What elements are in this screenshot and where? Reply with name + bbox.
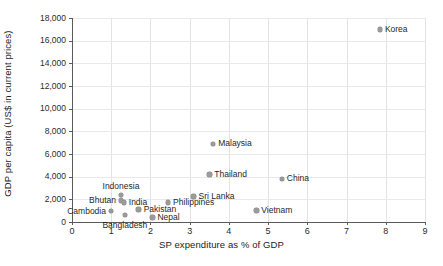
x-axis-tick-mark bbox=[386, 222, 387, 225]
x-axis-tick-label: 4 bbox=[219, 226, 239, 236]
gridline-horizontal bbox=[72, 177, 425, 178]
data-point-label: Thailand bbox=[214, 170, 247, 179]
x-axis-tick-label: 0 bbox=[62, 226, 82, 236]
gridline-horizontal bbox=[72, 109, 425, 110]
x-axis-title: SP expenditure as % of GDP bbox=[0, 239, 443, 250]
gridline-vertical bbox=[425, 18, 426, 222]
y-axis-tick-label: 0 bbox=[0, 218, 66, 226]
y-axis-tick-mark bbox=[69, 86, 72, 87]
y-axis-tick-label: 8,000 bbox=[0, 127, 66, 135]
gridline-horizontal bbox=[72, 86, 425, 87]
y-axis-tick-mark bbox=[69, 41, 72, 42]
scatter-chart: SP expenditure as % of GDP GDP per capit… bbox=[0, 0, 443, 266]
data-point[interactable] bbox=[254, 208, 259, 213]
data-point[interactable] bbox=[207, 172, 212, 177]
y-axis-tick-label: 16,000 bbox=[0, 36, 66, 44]
data-point-label: Vietnam bbox=[261, 206, 292, 215]
gridline-vertical bbox=[150, 18, 151, 222]
data-point-label: Malaysia bbox=[218, 139, 252, 148]
y-axis-tick-mark bbox=[69, 177, 72, 178]
data-point-label: Philippines bbox=[173, 198, 214, 207]
y-axis-tick-label: 12,000 bbox=[0, 82, 66, 90]
y-axis-tick-label: 10,000 bbox=[0, 104, 66, 112]
gridline-vertical bbox=[347, 18, 348, 222]
y-axis-tick-label: 4,000 bbox=[0, 172, 66, 180]
x-axis-tick-mark bbox=[150, 222, 151, 225]
y-axis-tick-mark bbox=[69, 199, 72, 200]
gridline-horizontal bbox=[72, 41, 425, 42]
data-point-label: Cambodia bbox=[67, 207, 106, 216]
data-point-label: Indonesia bbox=[103, 182, 140, 191]
data-point[interactable] bbox=[122, 200, 127, 205]
data-point[interactable] bbox=[136, 207, 141, 212]
x-axis-tick-mark bbox=[307, 222, 308, 225]
y-axis-tick-label: 14,000 bbox=[0, 59, 66, 67]
gridline-horizontal bbox=[72, 154, 425, 155]
y-axis-tick-mark bbox=[69, 154, 72, 155]
x-axis-tick-mark bbox=[347, 222, 348, 225]
gridline-vertical bbox=[268, 18, 269, 222]
x-axis-tick-label: 6 bbox=[297, 226, 317, 236]
y-axis-tick-label: 18,000 bbox=[0, 14, 66, 22]
x-axis-tick-mark bbox=[425, 222, 426, 225]
y-axis-tick-label: 6,000 bbox=[0, 150, 66, 158]
gridline-vertical bbox=[307, 18, 308, 222]
y-axis-tick-mark bbox=[69, 109, 72, 110]
y-axis-tick-label: 2,000 bbox=[0, 195, 66, 203]
x-axis-tick-mark bbox=[72, 222, 73, 225]
x-axis-tick-label: 9 bbox=[415, 226, 435, 236]
data-point-label: Korea bbox=[385, 25, 408, 34]
x-axis-tick-label: 5 bbox=[258, 226, 278, 236]
gridline-horizontal bbox=[72, 131, 425, 132]
gridline-vertical bbox=[111, 18, 112, 222]
y-axis-line bbox=[72, 18, 73, 223]
x-axis-tick-label: 3 bbox=[180, 226, 200, 236]
gridline-vertical bbox=[386, 18, 387, 222]
y-axis-tick-mark bbox=[69, 131, 72, 132]
gridline-horizontal bbox=[72, 63, 425, 64]
plot-area bbox=[72, 18, 425, 222]
x-axis-tick-label: 8 bbox=[376, 226, 396, 236]
data-point[interactable] bbox=[378, 27, 383, 32]
gridline-horizontal bbox=[72, 18, 425, 19]
x-axis-tick-mark bbox=[268, 222, 269, 225]
data-point[interactable] bbox=[150, 215, 155, 220]
x-axis-tick-mark bbox=[190, 222, 191, 225]
data-point-label: China bbox=[287, 174, 309, 183]
x-axis-tick-label: 7 bbox=[337, 226, 357, 236]
x-axis-tick-mark bbox=[229, 222, 230, 225]
y-axis-tick-mark bbox=[69, 18, 72, 19]
data-point-label: Nepal bbox=[157, 213, 179, 222]
y-axis-tick-mark bbox=[69, 63, 72, 64]
data-point-label: Bangladesh bbox=[102, 221, 147, 230]
gridline-vertical bbox=[190, 18, 191, 222]
data-point-label: Bhutan bbox=[89, 196, 116, 205]
